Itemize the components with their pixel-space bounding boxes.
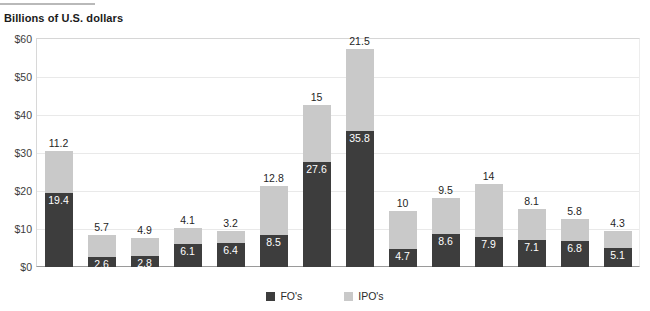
bar-value-label-ipo: 8.1 [512,196,552,207]
bar-value-label-fo: 6.8 [561,243,589,254]
bar-segment-fo[interactable]: 27.6 [303,162,331,267]
bar-value-label-fo: 2.6 [88,259,116,270]
chart-title: Billions of U.S. dollars [4,12,123,24]
y-axis-tick-label: $0 [20,261,32,273]
bar-segment-ipo[interactable] [432,198,460,234]
legend-item[interactable]: IPO's [344,290,383,302]
bar-value-label-ipo: 4.1 [168,215,208,226]
bar-value-label-ipo: 5.7 [82,222,122,233]
bar-value-label-ipo: 15 [297,92,337,103]
y-axis-tick-label: $20 [14,185,32,197]
bar-segment-ipo[interactable] [260,186,288,235]
bar-segment-fo[interactable]: 8.5 [260,235,288,267]
bar-segment-fo[interactable]: 6.4 [217,243,245,267]
bar-segment-ipo[interactable] [389,211,417,249]
bar-value-label-fo: 2.8 [131,258,159,269]
bar-segment-ipo[interactable] [45,151,73,194]
bar-segment-fo[interactable]: 35.8 [346,131,374,267]
y-axis-tick-label: $50 [14,71,32,83]
legend-swatch-icon [266,292,275,301]
bar-value-label-fo: 35.8 [346,133,374,144]
bar-value-label-ipo: 5.8 [555,206,595,217]
top-divider-rule [0,3,95,5]
bar-value-label-ipo: 9.5 [426,185,466,196]
bar-segment-ipo[interactable] [604,231,632,247]
bar-value-label-fo: 5.1 [604,250,632,261]
bar-segment-ipo[interactable] [346,49,374,131]
bar-value-label-fo: 8.5 [260,237,288,248]
y-axis-tick-label: $40 [14,109,32,121]
bar-segment-fo[interactable]: 2.6 [88,257,116,267]
bar-segment-ipo[interactable] [131,238,159,257]
bar-value-label-ipo: 21.5 [340,36,380,47]
bar-value-label-fo: 4.7 [389,251,417,262]
bar-value-label-ipo: 4.9 [125,225,165,236]
bar-segment-ipo[interactable] [561,219,589,241]
bar-segment-ipo[interactable] [88,235,116,257]
legend-label: FO's [280,290,302,302]
bar-segment-ipo[interactable] [518,209,546,240]
bar-segment-ipo[interactable] [174,228,202,244]
bar-segment-fo[interactable]: 7.1 [518,240,546,267]
bar-value-label-fo: 7.1 [518,242,546,253]
y-axis-tick-label: $60 [14,33,32,45]
bar-segment-ipo[interactable] [475,184,503,237]
bar-segment-fo[interactable]: 19.4 [45,193,73,267]
bar-value-label-ipo: 12.8 [254,173,294,184]
bar-value-label-ipo: 10 [383,198,423,209]
bar-segment-fo[interactable]: 6.1 [174,244,202,267]
bar-value-label-fo: 6.4 [217,245,245,256]
bar-value-label-ipo: 4.3 [598,218,638,229]
bar-segment-fo[interactable]: 4.7 [389,249,417,267]
bar-segment-fo[interactable]: 5.1 [604,248,632,267]
bar-segment-fo[interactable]: 6.8 [561,241,589,267]
legend-swatch-icon [344,292,353,301]
bars-plot-layer: 19.411.220002.65.720012.84.920026.14.120… [37,39,639,267]
bar-segment-ipo[interactable] [217,231,245,243]
bar-value-label-fo: 6.1 [174,246,202,257]
legend-item[interactable]: FO's [266,290,302,302]
legend-label: IPO's [358,290,383,302]
bar-segment-ipo[interactable] [303,105,331,162]
bar-segment-fo[interactable]: 2.8 [131,256,159,267]
bar-value-label-fo: 19.4 [45,195,73,206]
bar-segment-fo[interactable]: 8.6 [432,234,460,267]
bar-value-label-ipo: 14 [469,171,509,182]
chart-legend: FO'sIPO's [0,290,650,302]
y-axis-tick-label: $30 [14,147,32,159]
bar-segment-fo[interactable]: 7.9 [475,237,503,267]
y-axis-tick-label: $10 [14,223,32,235]
bar-value-label-fo: 27.6 [303,164,331,175]
bar-value-label-fo: 8.6 [432,236,460,247]
y-axis-tick-labels: $0$10$20$30$40$50$60 [0,38,36,268]
bar-value-label-ipo: 3.2 [211,218,251,229]
bar-value-label-fo: 7.9 [475,239,503,250]
bar-value-label-ipo: 11.2 [39,138,79,149]
